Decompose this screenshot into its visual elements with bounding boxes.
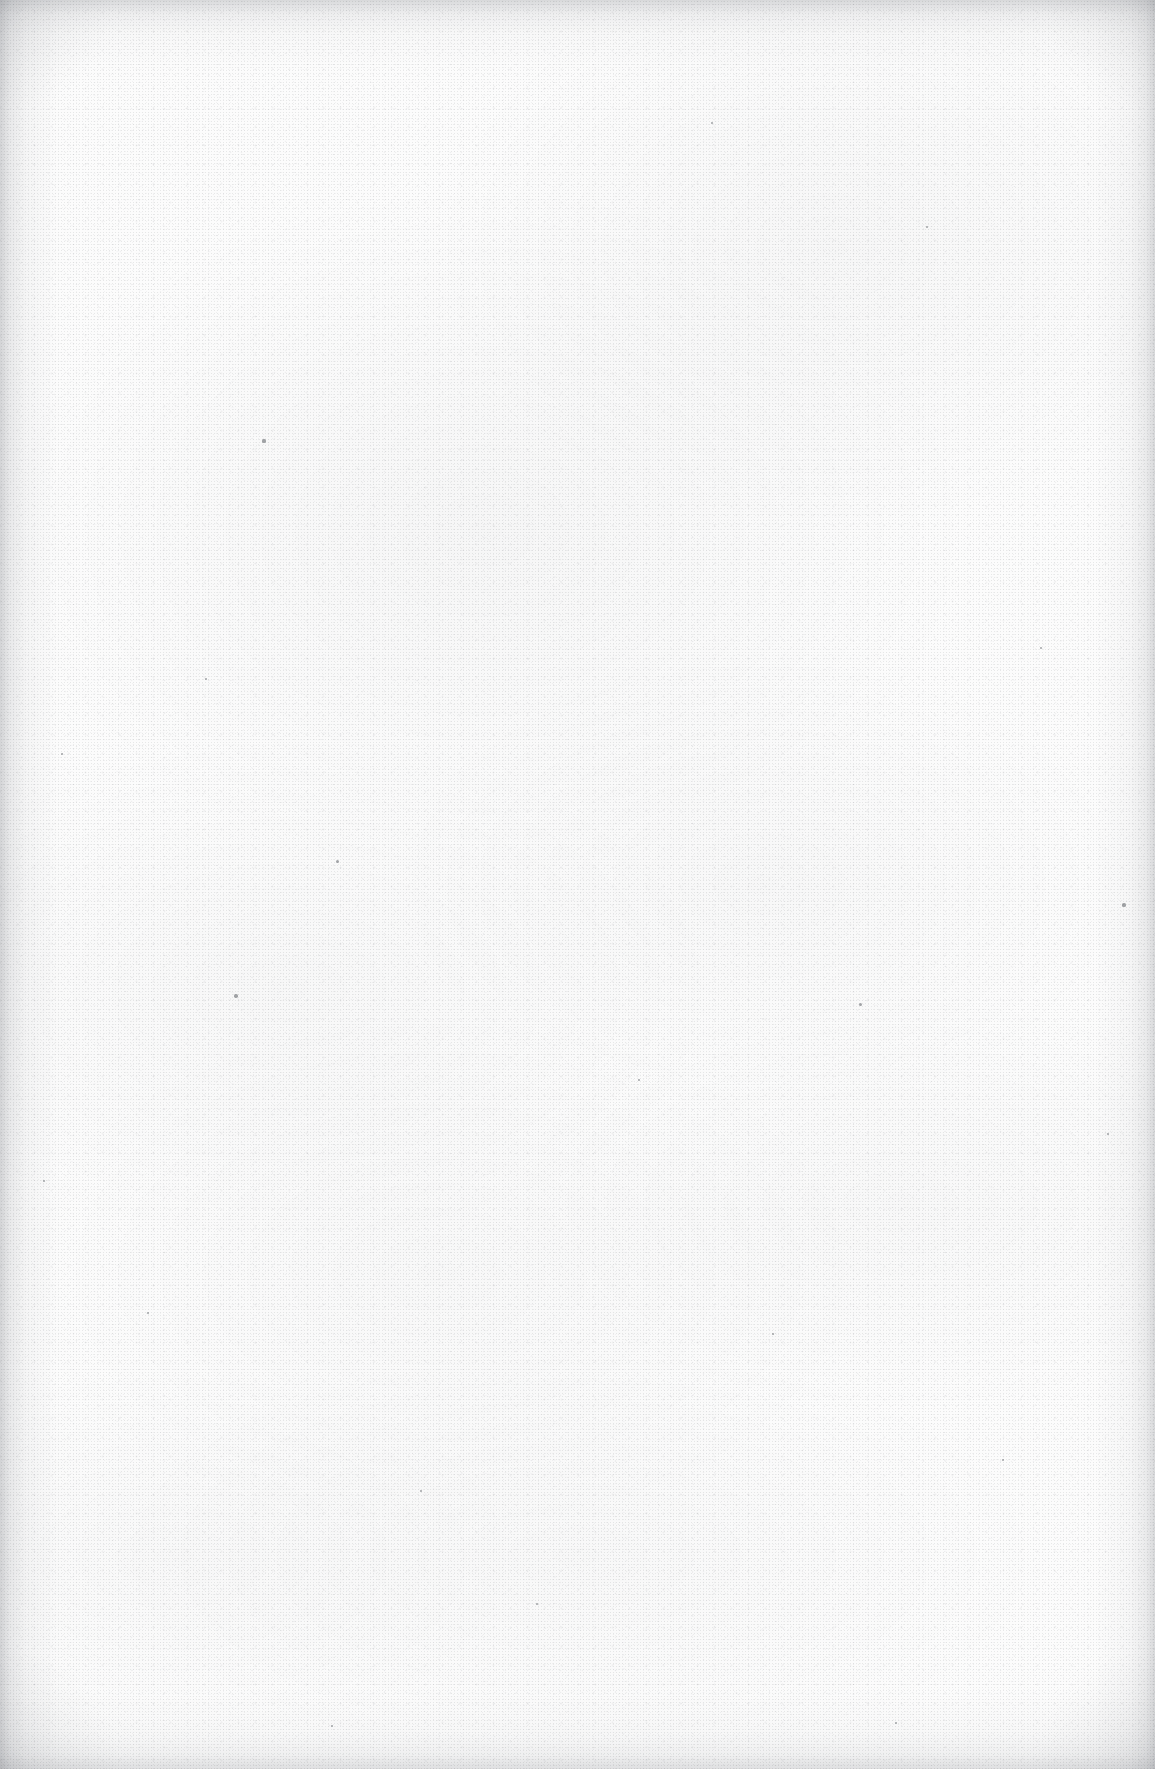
scanned-page <box>0 0 1155 1769</box>
page-content <box>96 96 1059 1673</box>
